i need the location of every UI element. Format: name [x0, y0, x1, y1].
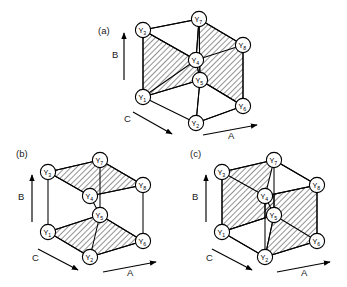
panels-group: BCAY1Y2Y3Y4Y5Y6Y7Y8(a)BCAY1Y2Y3Y4Y5Y6Y7Y…	[16, 11, 330, 278]
panel-a-axis-label-a: A	[228, 130, 235, 141]
panel-label-a: (a)	[98, 25, 110, 36]
panel-a-axis-label-b: B	[112, 49, 118, 60]
unit-cell-panel-a: BCAY1Y2Y3Y4Y5Y6Y7Y8(a)	[98, 11, 257, 141]
panel-b-axis-arrow-c	[38, 249, 78, 270]
panel-a-site-y3: Y3	[135, 22, 150, 37]
panel-a-site-y6: Y6	[235, 98, 250, 113]
panel-b-axis-label-a: A	[127, 267, 134, 278]
panel-c-site-y2: Y2	[257, 249, 272, 264]
panel-c-site-y8: Y8	[309, 177, 324, 192]
panel-a-site-y1: Y1	[135, 89, 150, 104]
panel-a-site-y8: Y8	[235, 37, 250, 52]
panel-a-site-y4: Y4	[188, 52, 203, 67]
panel-b-site-y4: Y4	[82, 188, 97, 203]
panel-a-site-y7: Y7	[191, 11, 206, 26]
panel-c-axis-label-a: A	[301, 267, 308, 278]
panel-b-site-y7: Y7	[92, 152, 107, 167]
panel-c-axis-arrow-c	[212, 249, 252, 270]
panel-c-axis-label-b: B	[192, 191, 198, 202]
panel-a-axis-label-c: C	[124, 113, 131, 124]
panel-label-b: (b)	[16, 148, 28, 159]
panel-b-site-y8: Y8	[135, 177, 150, 192]
panel-a-axis-arrow-c	[133, 112, 172, 134]
panel-a-site-y5: Y5	[192, 72, 207, 87]
unit-cell-panel-c: BCAY1Y2Y3Y4Y5Y6Y7Y8(c)	[190, 148, 330, 278]
panel-a-site-y2: Y2	[188, 115, 203, 130]
panel-c-axis-label-c: C	[206, 252, 213, 263]
panel-a-edge-Y1-Y2	[143, 97, 196, 123]
panel-b-site-y1: Y1	[40, 224, 55, 239]
unit-cell-figure: BCAY1Y2Y3Y4Y5Y6Y7Y8(a)BCAY1Y2Y3Y4Y5Y6Y7Y…	[0, 0, 347, 287]
panel-b-site-y2: Y2	[82, 249, 97, 264]
panel-c-site-y7: Y7	[266, 152, 281, 167]
panel-b-site-y5: Y5	[92, 207, 107, 222]
panel-c-site-y5: Y5	[266, 207, 281, 222]
panel-b-site-y3: Y3	[40, 164, 55, 179]
panel-label-c: (c)	[190, 148, 201, 159]
panel-c-site-y3: Y3	[214, 164, 229, 179]
panel-b-axis-label-b: B	[18, 191, 24, 202]
panel-c-site-y6: Y6	[309, 233, 324, 248]
panel-c-site-y1: Y1	[214, 224, 229, 239]
panel-c-site-y4: Y4	[257, 188, 272, 203]
figure-root: BCAY1Y2Y3Y4Y5Y6Y7Y8(a)BCAY1Y2Y3Y4Y5Y6Y7Y…	[0, 0, 347, 287]
panel-b-site-y6: Y6	[135, 233, 150, 248]
unit-cell-panel-b: BCAY1Y2Y3Y4Y5Y6Y7Y8(b)	[16, 148, 156, 278]
panel-b-axis-label-c: C	[32, 252, 39, 263]
